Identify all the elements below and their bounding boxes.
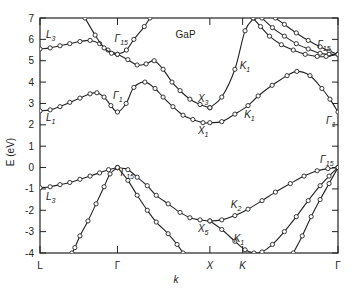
y-tick-label: -3 — [25, 226, 34, 237]
data-point — [145, 208, 149, 212]
data-point — [282, 230, 286, 234]
data-point — [109, 51, 113, 55]
data-point — [58, 44, 62, 48]
data-point — [327, 174, 331, 178]
y-axis-label: E (eV) — [5, 138, 16, 166]
data-point — [88, 174, 92, 178]
data-point — [315, 169, 319, 173]
data-point — [220, 218, 224, 222]
data-point — [328, 97, 332, 101]
data-point — [181, 113, 185, 117]
y-tick-label: 0 — [28, 162, 34, 173]
data-point — [78, 39, 82, 43]
y-tick-label: 2 — [28, 119, 34, 130]
data-point — [294, 31, 298, 35]
y-tick-label: 1 — [28, 141, 34, 152]
data-point — [171, 105, 175, 109]
data-point — [300, 234, 304, 238]
data-point — [78, 96, 82, 100]
data-point — [83, 16, 87, 20]
data-point — [302, 174, 306, 178]
band-label: L1 — [46, 112, 56, 125]
data-point — [38, 109, 42, 113]
data-point — [273, 190, 277, 194]
band-label: X5 — [197, 223, 209, 236]
data-point — [258, 24, 262, 28]
data-point — [198, 218, 202, 222]
data-point — [308, 74, 312, 78]
data-point — [315, 54, 319, 58]
band-label: K2 — [231, 199, 242, 212]
band-label: Γ15 — [320, 154, 334, 167]
data-point — [144, 62, 148, 66]
x-tick-label: K — [239, 260, 247, 271]
x-tick-label: Γ — [335, 260, 341, 271]
data-point — [124, 48, 128, 52]
data-point — [102, 95, 106, 99]
data-point — [252, 251, 256, 255]
data-point — [58, 105, 62, 109]
data-point — [78, 177, 82, 181]
band-label: Γ15 — [317, 39, 331, 52]
data-point — [135, 193, 139, 197]
data-point — [220, 95, 224, 99]
data-point — [148, 16, 152, 20]
data-point — [336, 52, 340, 56]
data-point — [94, 202, 98, 206]
data-point — [208, 219, 212, 223]
data-point — [178, 89, 182, 93]
data-point — [270, 26, 274, 30]
y-tick-label: 3 — [28, 98, 34, 109]
data-point — [48, 46, 52, 50]
data-point — [68, 180, 72, 184]
data-point — [220, 227, 224, 231]
data-point — [191, 117, 195, 121]
data-point — [124, 101, 128, 105]
data-point — [294, 215, 298, 219]
data-point — [73, 246, 77, 250]
data-point — [246, 103, 250, 107]
data-point — [38, 186, 42, 190]
data-point — [108, 172, 112, 176]
band-label: K1 — [240, 60, 251, 73]
data-point — [170, 80, 174, 84]
data-point — [233, 214, 237, 218]
y-tick-label: 7 — [28, 13, 34, 24]
data-point — [279, 43, 283, 47]
data-point — [132, 37, 136, 41]
data-point — [233, 112, 237, 116]
data-point — [70, 251, 74, 255]
data-point — [102, 185, 106, 189]
data-point — [132, 85, 136, 89]
data-point — [88, 38, 92, 42]
data-point — [109, 103, 113, 107]
y-tick-label: 5 — [28, 55, 34, 66]
data-point — [102, 46, 106, 50]
data-point — [135, 63, 139, 67]
y-tick-label: -4 — [25, 248, 34, 259]
data-point — [175, 242, 179, 246]
data-point — [145, 184, 149, 188]
data-point — [251, 16, 255, 20]
data-point — [260, 16, 264, 20]
y-tick-label: 4 — [28, 77, 34, 88]
y-tick-label: -1 — [25, 183, 34, 194]
data-point — [201, 121, 205, 125]
band-labels: L3Γ15GaPK1Γ15Γ1L1X3X1K1Γ1Γ15Γ15L3K2X5K1 — [46, 29, 336, 246]
band-label: K1 — [244, 109, 255, 122]
band-curve — [210, 168, 338, 254]
data-point — [86, 219, 90, 223]
x-tick-label: L — [37, 260, 43, 271]
data-point — [143, 80, 147, 84]
data-point — [178, 210, 182, 214]
data-point — [327, 181, 331, 185]
data-point — [303, 52, 307, 56]
data-point — [188, 216, 192, 220]
data-point — [126, 58, 130, 62]
data-point — [152, 59, 156, 63]
data-point — [106, 168, 110, 172]
data-point — [336, 165, 340, 169]
data-point — [309, 215, 313, 219]
data-point — [98, 171, 102, 175]
data-point — [306, 38, 310, 42]
